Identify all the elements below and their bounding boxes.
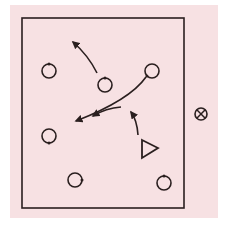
panel-background <box>10 5 218 218</box>
diagram-stage <box>0 0 227 227</box>
drill-diagram <box>0 0 227 227</box>
